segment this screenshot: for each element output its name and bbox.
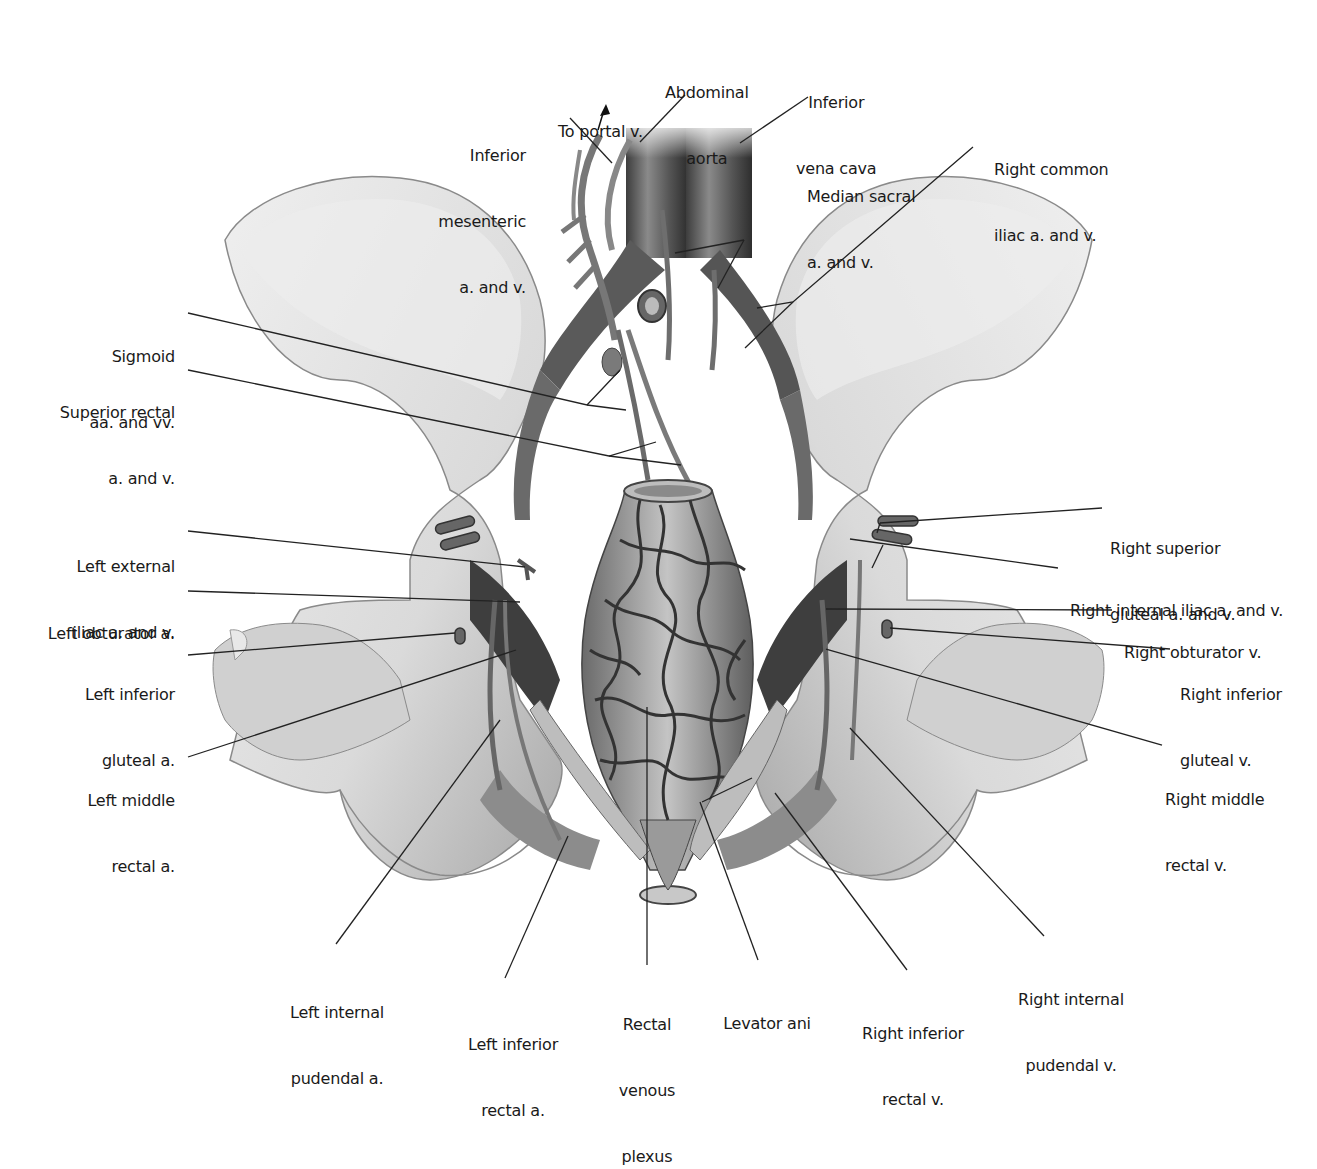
label-right-internal-pudendal: Right internal pudendal v. [996, 945, 1146, 1099]
label-superior-rectal: Superior rectal a. and v. [20, 358, 175, 512]
great-vessels [514, 104, 813, 520]
label-left-internal-pudendal: Left internal pudendal a. [262, 958, 412, 1112]
label-abdominal-aorta: Abdominal aorta [665, 38, 749, 192]
label-right-common-iliac: Right common iliac a. and v. [994, 115, 1109, 269]
label-rectal-venous-plexus: Rectal venous plexus [597, 970, 697, 1169]
label-to-portal-v: To portal v. [558, 77, 643, 165]
label-inferior-mesenteric: Inferior mesenteric a. and v. [430, 101, 526, 321]
label-levator-ani: Levator ani [712, 969, 822, 1057]
label-right-inferior-rectal: Right inferior rectal v. [838, 979, 988, 1133]
label-left-inferior-rectal: Left inferior rectal a. [438, 990, 588, 1144]
label-median-sacral: Median sacral a. and v. [807, 142, 915, 296]
label-right-middle-rectal: Right middle rectal v. [1165, 745, 1264, 899]
label-left-middle-rectal: Left middle rectal a. [20, 746, 175, 900]
